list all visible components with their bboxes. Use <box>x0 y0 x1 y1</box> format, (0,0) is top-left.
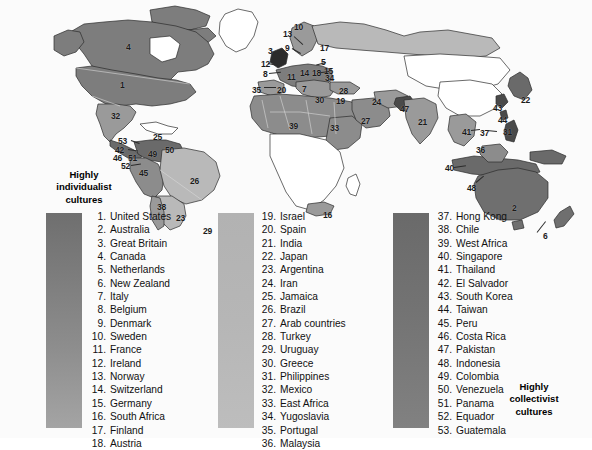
legend-item-label: Uruguay <box>280 343 319 356</box>
legend-item: 23.Argentina <box>258 263 382 276</box>
legend-item-number: 33. <box>258 397 276 410</box>
map-number-50: 50 <box>165 146 174 155</box>
legend-item: 1.United States <box>88 210 204 223</box>
map-number-1: 1 <box>120 81 125 90</box>
legend-item-label: Iran <box>280 277 298 290</box>
legend-item-number: 17. <box>88 424 106 437</box>
legend-item-label: Panama <box>456 397 494 410</box>
legend-item: 48.Indonesia <box>434 357 556 370</box>
region-new-guinea <box>530 150 566 164</box>
legend-item: 22.Japan <box>258 250 382 263</box>
map-number-44: 44 <box>498 116 507 125</box>
legend-item: 2.Australia <box>88 223 204 236</box>
legend-item-label: Jamaica <box>280 290 318 303</box>
legend-item: 11.France <box>88 343 204 356</box>
legend-item-number: 20. <box>258 223 276 236</box>
legend-item-number: 16. <box>88 410 106 423</box>
legend-item: 3.Great Britain <box>88 237 204 250</box>
legend-item-label: Turkey <box>280 330 311 343</box>
legend-item-number: 9. <box>88 317 106 330</box>
legend-item-number: 22. <box>258 250 276 263</box>
legend-item-number: 51. <box>434 397 452 410</box>
legend-item-number: 5. <box>88 263 106 276</box>
legend-item-label: Malaysia <box>280 437 320 450</box>
legend-item-number: 29. <box>258 343 276 356</box>
legend-item: 49.Colombia <box>434 370 556 383</box>
legend-item: 45.Peru <box>434 317 556 330</box>
legend-item-number: 47. <box>434 343 452 356</box>
legend-item: 36.Malaysia <box>258 437 382 450</box>
map-number-21: 21 <box>418 118 427 127</box>
legend-item: 25.Jamaica <box>258 290 382 303</box>
legend-item-number: 7. <box>88 290 106 303</box>
legend-item-number: 18. <box>88 437 106 450</box>
legend-item-label: Yugoslavia <box>280 410 329 423</box>
legend-item: 15.Germany <box>88 397 204 410</box>
legend-item-label: Peru <box>456 317 478 330</box>
legend-item: 33.East Africa <box>258 397 382 410</box>
legend-item-number: 26. <box>258 303 276 316</box>
legend-column-1: 1.United States2.Australia3.Great Britai… <box>88 210 204 450</box>
legend-item: 52.Equador <box>434 410 556 423</box>
legend-item-number: 4. <box>88 250 106 263</box>
legend-item-number: 13. <box>88 370 106 383</box>
heading-individualist: Highly individualist cultures <box>26 169 142 206</box>
legend-item-number: 31. <box>258 370 276 383</box>
legend-item-label: Denmark <box>110 317 151 330</box>
legend-item-label: East Africa <box>280 397 329 410</box>
heading-individualist-line-1: Highly <box>26 169 142 181</box>
legend-item-number: 41. <box>434 263 452 276</box>
legend-item: 43.South Korea <box>434 290 556 303</box>
legend-item: 14.Switzerland <box>88 383 204 396</box>
legend-item: 44.Taiwan <box>434 303 556 316</box>
map-number-41: 41 <box>462 128 471 137</box>
legend-item: 53.Guatemala <box>434 424 556 437</box>
legend-item-number: 52. <box>434 410 452 423</box>
map-number-11: 11 <box>287 73 296 82</box>
legend-item: 35.Portugal <box>258 424 382 437</box>
map-number-33: 33 <box>330 124 339 133</box>
legend-item-number: 28. <box>258 330 276 343</box>
legend-item: 38.Chile <box>434 223 556 236</box>
legend-item-number: 35. <box>258 424 276 437</box>
legend-item: 12.Ireland <box>88 357 204 370</box>
legend-item-label: Indonesia <box>456 357 500 370</box>
legend-item-label: Italy <box>110 290 129 303</box>
legend-item: 39.West Africa <box>434 237 556 250</box>
legend-item-number: 45. <box>434 317 452 330</box>
legend-item-number: 44. <box>434 303 452 316</box>
legend-item-number: 21. <box>258 237 276 250</box>
legend-item-label: Greece <box>280 357 313 370</box>
legend-item: 17.Finland <box>88 424 204 437</box>
legend-item-number: 42. <box>434 277 452 290</box>
legend-item-number: 10. <box>88 330 106 343</box>
legend-item-label: Australia <box>110 223 150 236</box>
legend-item-label: Portugal <box>280 424 318 437</box>
legend-item: 24.Iran <box>258 277 382 290</box>
legend-item-number: 14. <box>88 383 106 396</box>
legend-item: 34.Yugoslavia <box>258 410 382 423</box>
map-number-13: 13 <box>283 30 292 39</box>
map-number-30: 30 <box>315 96 324 105</box>
region-madagascar <box>346 174 360 196</box>
legend-item-number: 3. <box>88 237 106 250</box>
legend-item-label: Singapore <box>456 250 502 263</box>
legend-item-label: Venezuela <box>456 383 504 396</box>
legend-item-number: 43. <box>434 290 452 303</box>
legend-item-number: 15. <box>88 397 106 410</box>
legend-item: 26.Brazil <box>258 303 382 316</box>
legend-item: 31.Philippines <box>258 370 382 383</box>
legend-column-2: 19.Israel20.Spain21.India22.Japan23.Arge… <box>258 210 382 450</box>
map-number-26: 26 <box>190 177 199 186</box>
legend-item-number: 34. <box>258 410 276 423</box>
legend-item: 28.Turkey <box>258 330 382 343</box>
map-number-20: 20 <box>277 86 286 95</box>
legend-item: 20.Spain <box>258 223 382 236</box>
legend-item-label: France <box>110 343 142 356</box>
legend-item-label: Norway <box>110 370 145 383</box>
legend-item-label: Philippines <box>280 370 329 383</box>
legend-item-label: Ireland <box>110 357 141 370</box>
legend-item: 42.El Salvador <box>434 277 556 290</box>
legend-item-label: Canada <box>110 250 146 263</box>
